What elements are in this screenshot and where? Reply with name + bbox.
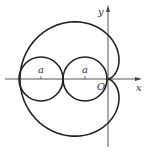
label-y-axis: y (97, 6, 104, 17)
label-a-left: a (38, 64, 44, 75)
label-origin: O (97, 81, 105, 92)
diagram-svg: a a O x y (0, 0, 146, 153)
label-x-axis: x (136, 82, 142, 93)
y-axis-arrow-icon (106, 5, 110, 12)
cardioid-diagram: a a O x y (0, 0, 146, 153)
label-a-right: a (82, 64, 88, 75)
x-axis-arrow-icon (135, 77, 142, 81)
